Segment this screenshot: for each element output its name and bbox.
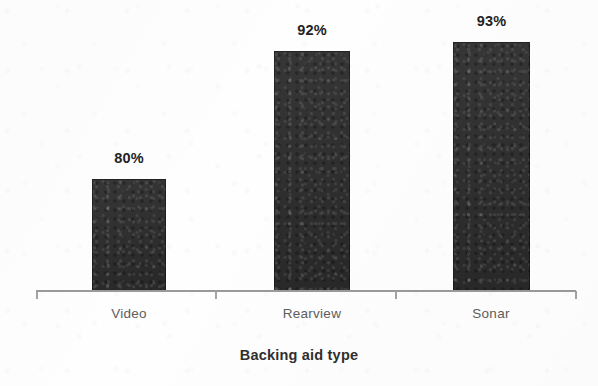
bar-video[interactable] xyxy=(92,179,166,291)
bar-value-sonar: 93% xyxy=(453,13,530,29)
x-axis-tick-0 xyxy=(36,291,38,299)
category-label-video: Video xyxy=(69,306,189,321)
x-axis-line xyxy=(36,290,576,292)
bar-value-rearview: 92% xyxy=(274,22,350,38)
category-label-sonar: Sonar xyxy=(431,306,551,321)
bar-slot-rearview: 92% xyxy=(274,0,350,291)
bar-value-video: 80% xyxy=(92,150,166,166)
bar-chart-figure: 80% 92% 93% Video Rearview Sonar Backing… xyxy=(0,0,598,386)
bar-slot-sonar: 93% xyxy=(453,0,530,291)
x-axis-tick-3 xyxy=(575,291,577,299)
x-axis-tick-2 xyxy=(395,291,397,299)
x-axis-tick-1 xyxy=(215,291,217,299)
plot-area: 80% 92% 93% xyxy=(36,0,576,291)
x-axis-title: Backing aid type xyxy=(0,347,598,363)
category-label-rearview: Rearview xyxy=(252,306,372,321)
bar-sonar[interactable] xyxy=(453,42,530,291)
bar-rearview[interactable] xyxy=(274,51,350,291)
bar-slot-video: 80% xyxy=(92,0,166,291)
